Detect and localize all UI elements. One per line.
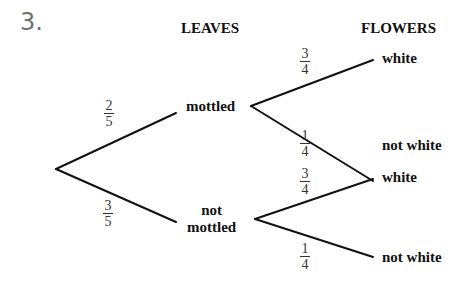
branch-not-mottled-not-white	[255, 219, 373, 257]
numerator: 3	[105, 199, 112, 212]
outcome-not-mottled-not-white: not white	[382, 250, 442, 265]
prob-mottled-not-white: 1 4	[300, 129, 310, 158]
denominator: 4	[302, 258, 309, 271]
node-not-mottled-line1: not	[187, 202, 236, 219]
node-not-mottled: not mottled	[187, 202, 236, 236]
numerator: 3	[302, 47, 309, 60]
branch-not-mottled	[56, 169, 176, 222]
numerator: 1	[302, 242, 309, 255]
branch-mottled-white	[251, 60, 373, 106]
prob-not-mottled-not-white: 1 4	[300, 242, 310, 271]
denominator: 4	[302, 183, 309, 196]
denominator: 4	[302, 63, 309, 76]
prob-not-mottled-white: 3 4	[300, 167, 310, 196]
numerator: 3	[302, 167, 309, 180]
branch-not-mottled-white	[255, 179, 373, 219]
prob-mottled-white: 3 4	[300, 47, 310, 76]
denominator: 5	[106, 115, 113, 128]
outcome-mottled-white: white	[382, 51, 417, 66]
numerator: 2	[106, 99, 113, 112]
numerator: 1	[302, 129, 309, 142]
denominator: 5	[105, 215, 112, 228]
outcome-not-mottled-white: white	[382, 170, 417, 185]
branch-mottled-not-white	[251, 106, 373, 181]
branch-mottled	[56, 113, 176, 169]
denominator: 4	[302, 145, 309, 158]
prob-mottled: 2 5	[104, 99, 114, 128]
outcome-mottled-not-white: not white	[382, 138, 442, 153]
node-mottled: mottled	[186, 98, 235, 115]
prob-not-mottled: 3 5	[103, 199, 113, 228]
node-not-mottled-line2: mottled	[187, 219, 236, 236]
